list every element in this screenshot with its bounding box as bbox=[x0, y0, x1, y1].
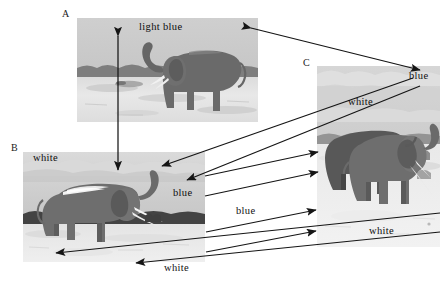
arrow-b-to-c-elephant bbox=[205, 172, 318, 196]
label-c-white-mid: white bbox=[348, 97, 373, 108]
arrow-overlay bbox=[0, 0, 448, 282]
arrow-mid-to-c-2 bbox=[206, 231, 316, 252]
arrow-right-blue-to-b-blue bbox=[187, 86, 420, 180]
panel-letter-b: B bbox=[11, 143, 18, 153]
label-right-blue: blue bbox=[409, 71, 428, 82]
arrow-right-blue-to-b-sky bbox=[162, 78, 413, 166]
label-b-blue: blue bbox=[173, 188, 192, 199]
arrow-b-to-c-white bbox=[205, 152, 318, 176]
label-b-white-bottom: white bbox=[164, 263, 189, 274]
arrow-a-to-c-diagonal bbox=[251, 28, 420, 70]
label-b-white-top: white bbox=[33, 153, 58, 164]
panel-letter-c: C bbox=[303, 58, 310, 68]
figure-canvas: A B C light blue white blue white blue w… bbox=[0, 0, 448, 282]
arrow-mid-to-c-1 bbox=[206, 210, 316, 232]
label-c-white-bottom: white bbox=[369, 226, 394, 237]
label-mid-blue: blue bbox=[236, 206, 255, 217]
panel-letter-a: A bbox=[62, 9, 69, 19]
label-a-light-blue: light blue bbox=[139, 22, 182, 33]
